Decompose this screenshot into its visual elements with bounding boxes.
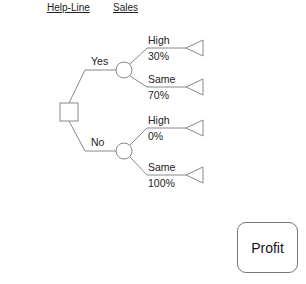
terminal-node-icon[interactable] <box>186 167 203 183</box>
profit-label: Profit <box>251 240 284 256</box>
chance-node-no-icon[interactable] <box>116 143 132 159</box>
profit-button[interactable]: Profit <box>237 222 298 273</box>
outcome-probability: 100% <box>148 177 175 189</box>
branch-yes-label: Yes <box>91 55 108 67</box>
terminal-node-icon[interactable] <box>186 40 203 56</box>
outcome-label: High <box>148 34 170 46</box>
branch-yes-line <box>69 70 116 103</box>
outcome-label: Same <box>148 161 176 173</box>
decision-node-icon[interactable] <box>60 103 78 121</box>
terminal-node-icon[interactable] <box>186 120 203 136</box>
outcome-label: Same <box>148 73 176 85</box>
outcome-probability: 30% <box>148 50 169 62</box>
outcome-probability: 0% <box>148 130 163 142</box>
outcome-probability: 70% <box>148 89 169 101</box>
terminal-node-icon[interactable] <box>186 79 203 95</box>
chance-node-yes-icon[interactable] <box>116 62 132 78</box>
branch-no-label: No <box>91 136 105 148</box>
outcome-label: High <box>148 114 170 126</box>
